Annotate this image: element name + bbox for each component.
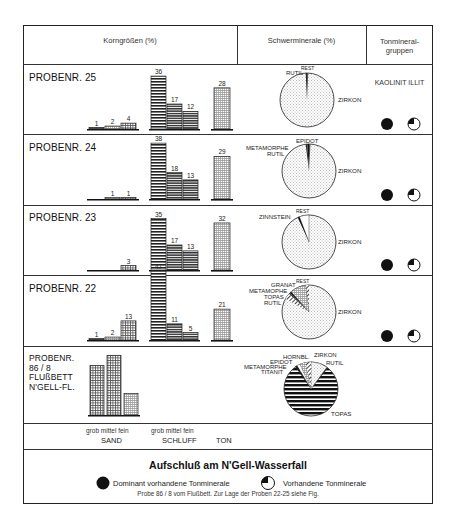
sand-subclasses: grob mittel fein: [86, 427, 129, 434]
legend-dominant-label: Dominant vorhandene Tonminerale: [113, 479, 230, 488]
kaolinit-dominant-icon: [381, 259, 393, 271]
silt-label: SCHLUFF: [162, 436, 197, 445]
clay-mineral-symbols: [0, 0, 457, 532]
figure-title: Aufschluß am N'Gell-Wasserfall: [23, 459, 433, 471]
legend-present-icon: [262, 477, 275, 490]
clay-row-23: [381, 259, 420, 271]
silt-subclasses: grob mittel fein: [151, 427, 194, 434]
kaolinit-dominant-icon: [381, 189, 393, 201]
legend-present-label: Vorhandene Tonminerale: [283, 479, 366, 488]
illit-present-icon: [408, 259, 420, 271]
illit-present-icon: [408, 330, 420, 342]
clay-row-25: [381, 118, 420, 130]
clay-row-22: [381, 330, 420, 342]
illit-present-icon: [408, 189, 420, 201]
figure-note: Probe 86 / 8 vom Flußbett. Zur Lage der …: [23, 490, 433, 497]
kaolinit-dominant-icon: [381, 330, 393, 342]
clay-row-24: [381, 189, 420, 201]
sand-label: SAND: [101, 436, 122, 445]
legend-dominant-icon: [97, 477, 110, 490]
kaolinit-dominant-icon: [381, 118, 393, 130]
illit-present-icon: [408, 118, 420, 130]
clay-label: TON: [216, 436, 232, 445]
